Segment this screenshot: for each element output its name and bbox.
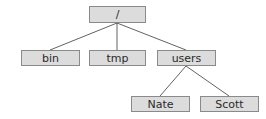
- node-label: bin: [42, 52, 59, 65]
- edge-users-scott: [186, 66, 229, 96]
- node-bin: bin: [21, 50, 80, 66]
- node-tmp: tmp: [89, 50, 146, 66]
- node-root: /: [89, 6, 146, 23]
- node-nate: Nate: [131, 96, 190, 112]
- node-label: tmp: [106, 52, 128, 65]
- node-users: users: [157, 50, 216, 66]
- node-label: Nate: [147, 98, 173, 111]
- edge-users-nate: [160, 66, 186, 96]
- edge-root-users: [117, 23, 186, 50]
- node-label: users: [172, 52, 202, 65]
- node-label: Scott: [215, 98, 243, 111]
- node-scott: Scott: [200, 96, 259, 112]
- node-label: /: [116, 8, 120, 21]
- edge-root-bin: [50, 23, 117, 50]
